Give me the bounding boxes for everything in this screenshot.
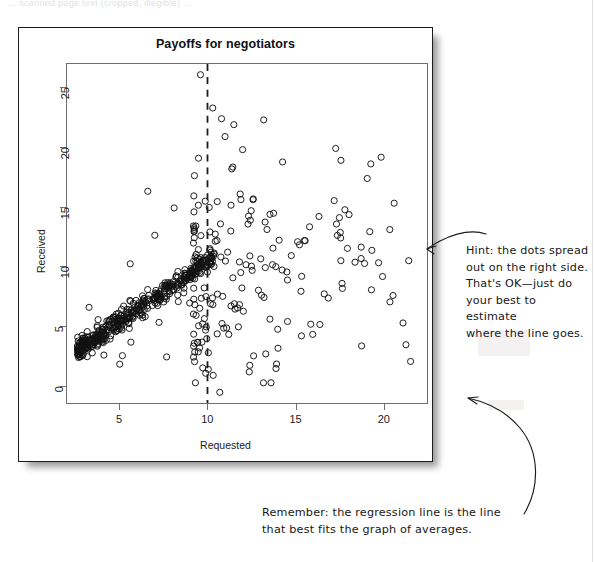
y-tick-label-10: 10 [59,266,71,278]
x-tick-20 [384,404,385,410]
hint-annotation: Hint: the dots spread out on the right s… [466,243,590,342]
y-tick-label-20: 20 [59,147,71,159]
x-tick-label-10: 10 [201,413,213,425]
scan-smudge-b [488,400,524,410]
x-axis-title: Requested [19,439,432,451]
y-tick-label-5: 5 [53,326,65,332]
x-tick-label-5: 5 [116,413,122,425]
screenshot-stage: ... scanned page text (cropped, illegibl… [0,0,595,562]
scan-page-edge [592,0,593,562]
y-tick-label-25: 25 [59,87,71,99]
figure-box: Payoffs for negotiators 5101520051015202… [18,27,433,462]
plot-frame [66,63,428,404]
x-tick-label-15: 15 [289,413,301,425]
scatter-points [67,64,427,403]
x-tick-5 [119,404,120,410]
chart-title: Payoffs for negotiators [19,37,432,51]
x-tick-label-20: 20 [378,413,390,425]
remember-annotation: Remember: the regression line is the lin… [262,505,512,538]
x-tick-15 [296,404,297,410]
remember-arrow [436,392,546,517]
y-axis-title: Received [35,229,47,273]
y-tick-label-15: 15 [59,207,71,219]
y-tick-label-0: 0 [53,386,65,392]
scan-header-text: ... scanned page text (cropped, illegibl… [8,0,488,10]
plot-area [67,64,427,403]
x-tick-10 [207,404,208,410]
